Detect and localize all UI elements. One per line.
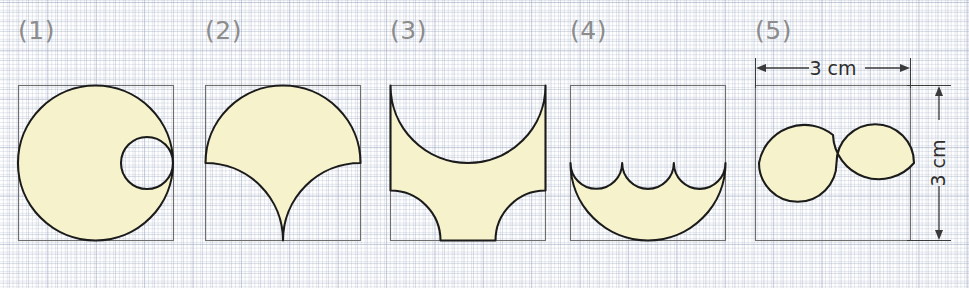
figure-2-label: (2) [205,18,242,43]
figure-4-label: (4) [570,18,607,43]
figure-5-height-label: 3 cm [927,139,949,186]
figure-5: (5) 3 cm 3 c [755,0,969,270]
figure-sheet: (1) (2) (3) (4) (5) [0,0,969,288]
figure-3-shaded-region [391,86,546,241]
figure-4: (4) [570,0,770,270]
figure-5-width-dimension: 3 cm [756,57,911,88]
figure-2-shaded-region [206,85,361,240]
figure-5-label: (5) [755,18,792,43]
figure-1-label: (1) [18,18,55,43]
figure-3: (3) [390,0,590,270]
figure-5-shaded-region [759,124,914,201]
figure-1-shaded-region [18,85,173,240]
figure-1: (1) [18,0,218,270]
arrowhead-up-icon [935,86,943,96]
figure-2: (2) [205,0,405,270]
figure-4-shaded-region [571,163,726,241]
arrowhead-left-icon [756,64,766,72]
figure-3-label: (3) [390,18,427,43]
figure-5-width-label: 3 cm [809,57,856,79]
arrowhead-right-icon [900,64,910,72]
arrowhead-down-icon [935,230,943,240]
